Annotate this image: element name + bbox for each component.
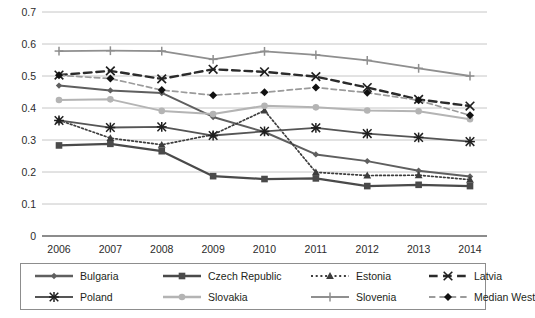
y-tick-label: 0.5	[21, 70, 36, 82]
data-point-marker	[261, 102, 268, 109]
x-tick-label: 2009	[201, 243, 225, 255]
data-point-marker	[364, 183, 371, 190]
legend-label: Poland	[80, 291, 113, 303]
x-tick-label: 2012	[356, 243, 380, 255]
data-point-marker	[157, 122, 167, 132]
data-point-marker	[261, 176, 268, 183]
data-point-marker	[364, 158, 370, 164]
data-point-marker	[260, 126, 270, 136]
data-point-marker	[261, 88, 269, 96]
legend-swatch-asterisk-icon	[33, 290, 75, 304]
y-tick-label: 0.3	[21, 134, 36, 146]
series-czech-republic	[56, 141, 474, 190]
data-point-marker	[107, 87, 113, 93]
data-point-marker	[54, 116, 64, 126]
data-point-marker	[326, 272, 334, 279]
data-point-marker	[55, 47, 64, 56]
legend-swatch-x-icon	[427, 269, 469, 283]
plot-area: 0.70.60.50.40.30.20.10 20062007200820092…	[0, 0, 505, 263]
legend-label: Slovakia	[208, 291, 248, 303]
gridlines	[42, 12, 487, 236]
y-tick-label: 0.1	[21, 198, 36, 210]
legend-item-slovakia[interactable]: Slovakia	[161, 290, 309, 304]
x-axis-tick-labels: 200620072008200920102011201220132014	[47, 243, 482, 255]
data-point-marker	[467, 183, 474, 190]
legend-label: Slovenia	[356, 291, 396, 303]
y-tick-label: 0.7	[21, 6, 36, 18]
legend-label: Latvia	[474, 270, 502, 282]
x-tick-label: 2008	[150, 243, 174, 255]
data-point-marker	[51, 273, 57, 279]
x-tick-label: 2013	[407, 243, 431, 255]
y-tick-label: 0.4	[21, 102, 36, 114]
data-point-marker	[364, 107, 371, 114]
data-point-marker	[208, 131, 218, 141]
legend-item-median-west[interactable]: Median West	[427, 290, 535, 304]
y-tick-label: 0.2	[21, 166, 36, 178]
data-point-marker	[49, 292, 59, 302]
data-point-marker	[362, 129, 372, 139]
data-point-marker	[326, 292, 335, 301]
data-point-marker	[56, 82, 62, 88]
series-layer	[54, 46, 475, 189]
chart-legend: BulgariaCzech RepublicEstoniaLatviaPolan…	[20, 263, 486, 310]
legend-label: Estonia	[356, 270, 391, 282]
x-tick-label: 2007	[99, 243, 123, 255]
data-point-marker	[415, 182, 422, 189]
x-tick-label: 2014	[458, 243, 482, 255]
legend-swatch-plus-icon	[309, 290, 351, 304]
data-point-marker	[260, 47, 269, 56]
data-point-marker	[179, 293, 186, 300]
legend-item-poland[interactable]: Poland	[33, 290, 161, 304]
data-point-marker	[210, 111, 217, 118]
data-point-marker	[158, 108, 165, 115]
legend-item-czech-republic[interactable]: Czech Republic	[161, 269, 309, 283]
data-point-marker	[179, 273, 186, 280]
y-axis-tick-labels: 0.70.60.50.40.30.20.10	[21, 6, 36, 242]
data-point-marker	[311, 123, 321, 133]
y-tick-label: 0	[30, 230, 36, 242]
data-point-marker	[158, 148, 165, 155]
data-point-marker	[465, 137, 475, 147]
data-point-marker	[209, 55, 218, 64]
data-point-marker	[466, 72, 475, 81]
x-tick-label: 2006	[47, 243, 71, 255]
legend-label: Czech Republic	[208, 270, 282, 282]
data-point-marker	[210, 173, 217, 180]
legend-item-latvia[interactable]: Latvia	[427, 269, 535, 283]
legend-item-slovenia[interactable]: Slovenia	[309, 290, 427, 304]
legend-label: Bulgaria	[80, 270, 119, 282]
y-tick-label: 0.6	[21, 38, 36, 50]
series-slovenia	[55, 46, 475, 80]
legend-item-estonia[interactable]: Estonia	[309, 269, 427, 283]
data-point-marker	[106, 46, 115, 55]
series-poland	[54, 116, 475, 147]
data-point-marker	[209, 91, 217, 99]
data-point-marker	[313, 151, 319, 157]
data-point-marker	[311, 50, 320, 59]
data-point-marker	[414, 64, 423, 73]
data-point-marker	[313, 104, 320, 111]
data-point-marker	[363, 56, 372, 65]
legend-swatch-diamond-icon	[33, 269, 75, 283]
data-point-marker	[56, 97, 63, 104]
data-point-marker	[107, 96, 114, 103]
legend-label: Median West	[474, 291, 535, 303]
data-point-marker	[312, 84, 320, 92]
legend-item-bulgaria[interactable]: Bulgaria	[33, 269, 161, 283]
data-point-marker	[444, 293, 452, 301]
data-point-marker	[107, 141, 114, 148]
data-point-marker	[313, 175, 320, 182]
data-point-marker	[157, 47, 166, 56]
data-point-marker	[56, 142, 63, 149]
legend-swatch-triangle-icon	[309, 269, 351, 283]
x-tick-label: 2011	[305, 243, 328, 255]
legend-swatch-square-icon	[161, 269, 203, 283]
data-point-marker	[415, 108, 422, 115]
legend-swatch-filled-diamond-icon	[427, 290, 469, 304]
data-point-marker	[105, 123, 115, 133]
x-tick-label: 2010	[253, 243, 277, 255]
legend-swatch-circle-icon	[161, 290, 203, 304]
data-point-marker	[414, 133, 424, 143]
